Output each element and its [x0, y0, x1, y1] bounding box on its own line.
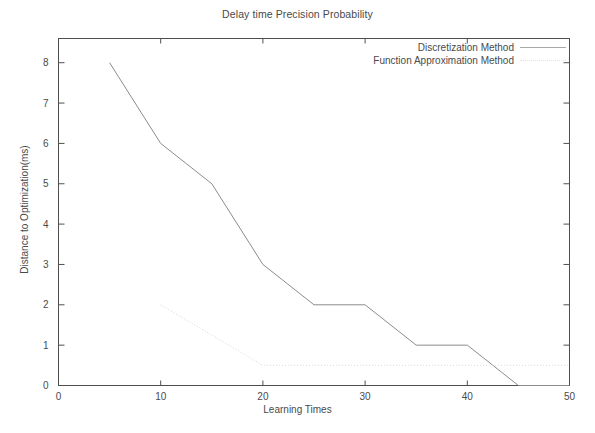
y-axis-label: Distance to Optimization(ms) [19, 100, 30, 320]
y-tick-label: 3 [43, 259, 49, 270]
data-series [110, 63, 570, 386]
x-tick-label: 30 [360, 391, 372, 402]
y-tick-label: 6 [43, 138, 49, 149]
chart-figure: Delay time Precision Probability Discret… [0, 0, 595, 433]
plot-area: 01020304050 012345678 [0, 0, 595, 433]
y-tick-label: 5 [43, 178, 49, 189]
x-tick-label: 20 [257, 391, 269, 402]
axes [59, 39, 570, 386]
x-tick-label: 0 [56, 391, 62, 402]
y-tick-label: 8 [43, 57, 49, 68]
y-tick-label: 0 [43, 380, 49, 391]
y-tick-label: 1 [43, 340, 49, 351]
x-tick-label: 10 [155, 391, 167, 402]
x-axis-label: Learning Times [0, 404, 595, 415]
series-line-discretization-method [110, 63, 570, 386]
y-tick-label: 7 [43, 98, 49, 109]
x-axis-ticks: 01020304050 [56, 39, 576, 402]
x-tick-label: 40 [462, 391, 474, 402]
y-tick-label: 4 [43, 219, 49, 230]
y-axis-ticks: 012345678 [43, 57, 570, 391]
series-line-function-approximation-method [161, 305, 570, 366]
x-tick-label: 50 [564, 391, 576, 402]
y-tick-label: 2 [43, 299, 49, 310]
plot-frame [59, 39, 570, 386]
